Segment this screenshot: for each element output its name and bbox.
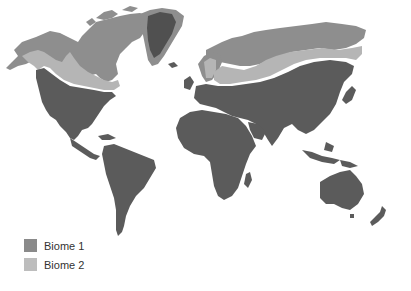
madagascar (244, 172, 252, 188)
legend-label: Biome 1 (44, 240, 84, 252)
legend-item-biome-2: Biome 2 (24, 255, 84, 274)
new-zealand (370, 206, 386, 226)
iceland (168, 62, 178, 68)
british-isles (184, 76, 194, 90)
japan (342, 86, 356, 104)
south-america (102, 144, 156, 236)
caribbean (98, 134, 116, 140)
legend-item-biome-1: Biome 1 (24, 236, 84, 255)
legend-label: Biome 2 (44, 259, 84, 271)
australia (320, 170, 364, 210)
africa (176, 110, 256, 200)
legend: Biome 1 Biome 2 (24, 236, 84, 274)
legend-swatch-biome-1 (24, 239, 37, 252)
legend-swatch-biome-2 (24, 258, 37, 271)
southeast-asia-islands (302, 142, 358, 168)
central-america (70, 138, 100, 160)
tasmania (350, 214, 354, 218)
